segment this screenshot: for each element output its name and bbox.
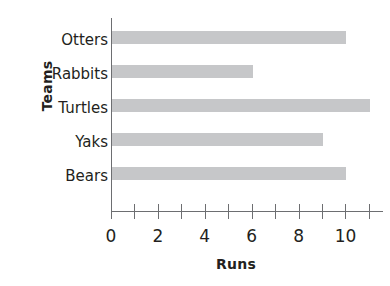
bar-yaks [112, 133, 323, 146]
x-axis-tick-label: 10 [325, 226, 365, 246]
bar-bears [112, 167, 346, 180]
x-axis-tick-label: 8 [279, 226, 319, 246]
x-axis-tick [252, 204, 253, 219]
x-axis-tick [181, 204, 182, 219]
category-label-yaks: Yaks [14, 135, 108, 150]
x-axis-tick [275, 204, 276, 219]
x-axis-tick [111, 204, 112, 219]
category-label-rabbits: Rabbits [14, 67, 108, 82]
bar-turtles [112, 99, 370, 112]
category-label-turtles: Turtles [14, 101, 108, 116]
x-axis-tick-label: 0 [91, 226, 131, 246]
x-axis-tick [322, 204, 323, 219]
x-axis-title: Runs [111, 256, 361, 272]
x-axis-tick [299, 204, 300, 219]
x-axis-tick-label: 2 [138, 226, 178, 246]
x-axis-tick [205, 204, 206, 219]
x-axis-tick [345, 204, 346, 219]
x-axis-tick-label: 6 [232, 226, 272, 246]
bar-chart: Teams OttersRabbitsTurtlesYaksBears 0246… [0, 0, 390, 286]
x-axis-tick [158, 204, 159, 219]
category-label-bears: Bears [14, 169, 108, 184]
x-axis-tick-label: 4 [185, 226, 225, 246]
bar-otters [112, 31, 346, 44]
category-label-group: OttersRabbitsTurtlesYaksBears [10, 0, 108, 200]
x-axis-tick [228, 204, 229, 219]
x-axis-tick [134, 204, 135, 219]
plot-area [111, 18, 383, 212]
x-axis-line [111, 211, 383, 212]
y-axis-line [111, 18, 112, 212]
category-label-otters: Otters [14, 33, 108, 48]
x-axis-tick [369, 204, 370, 219]
x-axis-tick-label-group: 0246810 [111, 226, 383, 250]
bar-rabbits [112, 65, 253, 78]
